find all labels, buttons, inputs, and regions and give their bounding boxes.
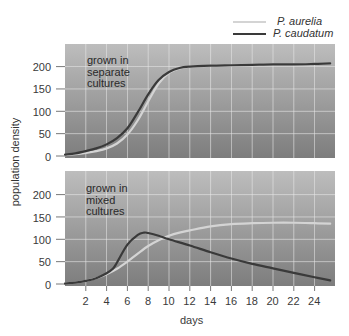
y-tick-label: 200 [33,189,51,201]
y-tick-label: 50 [39,128,51,140]
y-axis-title: population density [9,107,21,217]
x-tick-label: 2 [83,295,89,307]
panel-2-annotation: grown in mixed cultures [86,183,128,218]
x-tick-label: 10 [163,295,175,307]
annotation-line: grown in [86,183,128,195]
x-tick-label: 24 [308,295,320,307]
x-axis-title: days [180,314,203,326]
y-tick-label: 0 [45,279,51,291]
y-tick-label: 200 [33,61,51,73]
x-tick-label: 6 [124,295,130,307]
y-tick-label: 0 [45,151,51,163]
annotation-line: cultures [86,206,128,218]
x-tick-label: 4 [103,295,109,307]
y-tick-label: 150 [33,212,51,224]
y-tick-label: 150 [33,83,51,95]
annotation-line: grown in [87,55,130,67]
y-tick-label: 50 [39,256,51,268]
x-tick-label: 12 [183,295,195,307]
chart-figure [0,0,349,336]
panel-1-annotation: grown in separate cultures [87,55,130,90]
legend-label-caudatum: P. caudatum [273,27,333,39]
legend [233,22,266,34]
y-tick-label: 100 [33,106,51,118]
annotation-line: cultures [87,78,130,90]
x-tick-label: 14 [204,295,216,307]
y-tick-label: 100 [33,234,51,246]
x-tick-label: 22 [287,295,299,307]
x-tick-label: 16 [225,295,237,307]
x-tick-label: 20 [267,295,279,307]
x-tick-label: 18 [246,295,258,307]
legend-label-aurelia: P. aurelia [277,15,322,27]
x-tick-label: 8 [145,295,151,307]
